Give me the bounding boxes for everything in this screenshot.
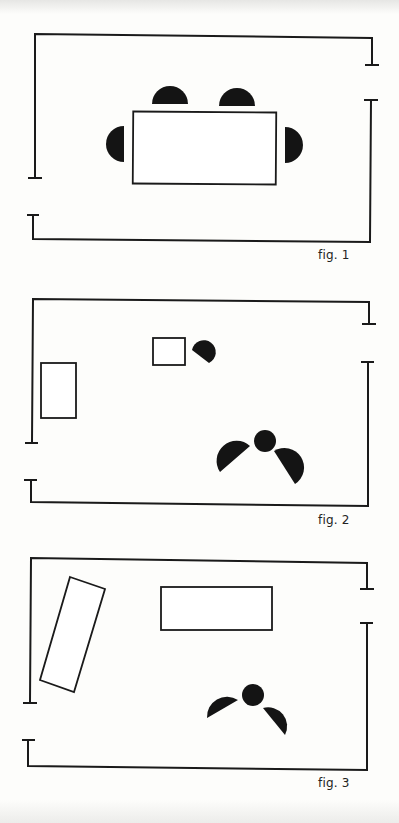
figure-1 xyxy=(28,34,378,242)
figure-3-caption: fig. 3 xyxy=(318,776,350,790)
chair-left xyxy=(106,126,124,162)
chair-round-left xyxy=(207,697,238,718)
chair-top-left xyxy=(152,86,188,104)
table xyxy=(133,112,276,185)
chair-round-right xyxy=(274,448,304,484)
chair-top-right xyxy=(219,88,255,106)
chair-small-table xyxy=(192,340,216,363)
chair-round-right xyxy=(263,707,287,735)
angled-rectangle xyxy=(40,577,105,692)
table xyxy=(161,587,272,630)
round-table xyxy=(254,430,276,452)
small-table xyxy=(153,338,185,365)
round-table xyxy=(242,684,264,706)
chair-round-left xyxy=(217,441,250,472)
rectangle-left xyxy=(41,363,76,418)
chair-right xyxy=(285,127,303,163)
figure-2 xyxy=(25,299,375,506)
figure-3 xyxy=(23,558,373,770)
figure-2-caption: fig. 2 xyxy=(318,513,350,527)
figure-1-caption: fig. 1 xyxy=(318,248,350,262)
room-walls xyxy=(25,299,375,506)
floor-plan-diagrams xyxy=(0,0,399,823)
